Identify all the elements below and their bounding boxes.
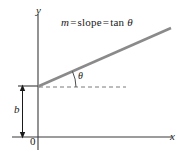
x-axis-label: x: [170, 131, 175, 142]
slope-equation: m=slope=tan θ: [61, 17, 133, 28]
intercept-label-b: b: [14, 104, 20, 115]
equation-word-slope: slope: [78, 16, 102, 28]
y-axis-label: y: [36, 5, 41, 16]
equation-word-tan: tan: [110, 16, 124, 28]
equation-symbol-m: m: [61, 16, 69, 28]
angle-label-theta: θ: [78, 71, 83, 81]
equation-equals-first: =: [69, 16, 77, 28]
equation-symbol-theta: θ: [127, 16, 133, 28]
angle-arc: [73, 72, 77, 88]
origin-label: 0: [30, 136, 36, 147]
slope-intercept-diagram: y x 0 b θ m=slope=tan θ: [0, 0, 183, 157]
intercept-dimension-arrow: [20, 85, 25, 139]
slope-line: [38, 28, 171, 87]
equation-equals-second: =: [102, 16, 110, 28]
